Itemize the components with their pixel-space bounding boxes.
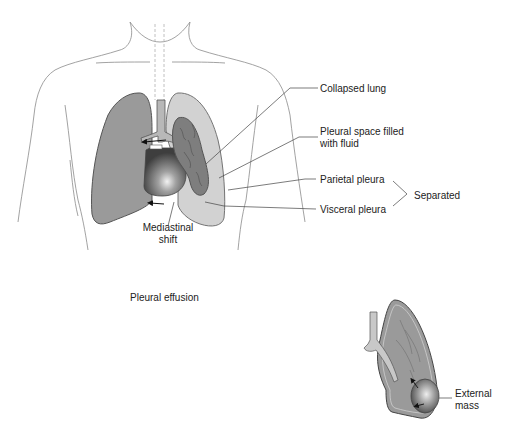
trachea-dashed bbox=[155, 24, 164, 100]
diagram-title: Pleural effusion bbox=[130, 292, 199, 304]
mediastinal-shift-arrow bbox=[150, 203, 164, 204]
normal-lung bbox=[92, 93, 152, 224]
label-visceral-pleura: Visceral pleura bbox=[320, 204, 386, 216]
pleural-effusion-diagram bbox=[0, 0, 509, 436]
label-external-line1: External bbox=[455, 388, 492, 400]
label-pleural-space-line2: with fluid bbox=[320, 138, 404, 150]
label-external-mass: External mass bbox=[455, 388, 492, 412]
label-mediastinal-line2: shift bbox=[138, 234, 198, 246]
label-mediastinal-shift: Mediastinal shift bbox=[138, 222, 198, 246]
label-pleural-space-line1: Pleural space filled bbox=[320, 126, 404, 138]
label-mediastinal-line1: Mediastinal bbox=[138, 222, 198, 234]
label-external-line2: mass bbox=[455, 400, 492, 412]
label-collapsed-lung: Collapsed lung bbox=[320, 83, 386, 95]
label-parietal-pleura: Parietal pleura bbox=[320, 174, 384, 186]
label-pleural-space: Pleural space filled with fluid bbox=[320, 126, 404, 150]
label-separated: Separated bbox=[414, 190, 460, 202]
inset-lung bbox=[364, 300, 452, 418]
heart-top bbox=[150, 145, 162, 149]
